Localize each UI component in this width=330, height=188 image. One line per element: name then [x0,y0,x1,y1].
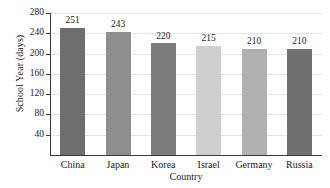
tick-mark [46,13,50,14]
gridline [51,54,322,55]
x-tick-label-russia: Russia [277,159,322,170]
tick-mark [46,114,50,115]
gridline [51,33,322,34]
gridline [51,94,322,95]
y-tick-label: 80 [35,109,45,119]
y-tick-label: 280 [30,8,44,18]
x-tick-label-china: China [50,159,95,170]
y-tick-label: 120 [30,89,44,99]
tick-mark [46,54,50,55]
gridline [51,74,322,75]
y-tick-label: 40 [35,130,45,140]
bar-value-label: 210 [247,37,261,47]
y-axis-title: School Year (days) [14,0,25,149]
gridline [51,13,322,14]
x-axis-title: Country [50,171,322,182]
bar-value-label: 220 [156,32,170,42]
tick-mark [46,33,50,34]
y-tick-label: 240 [30,28,44,38]
y-axis-line [50,13,51,155]
tick-mark [46,135,50,136]
bar-germany: 210 [242,49,267,156]
bar-value-label: 215 [202,34,216,44]
x-axis-line [50,155,322,156]
y-tick-label: 160 [30,69,44,79]
x-tick-label-korea: Korea [141,159,186,170]
x-tick-label-germany: Germany [231,159,276,170]
gridline [51,135,322,136]
bar-value-label: 210 [292,37,306,47]
y-tick-label: 200 [30,49,44,59]
bar-value-label: 243 [111,20,125,30]
bar-chart-figure: School Year (days) 2802402001601208040 2… [0,0,330,188]
bar-russia: 210 [287,49,312,156]
bar-china: 251 [60,28,85,155]
gridline [51,114,322,115]
bar-value-label: 251 [66,16,80,26]
tick-mark [46,74,50,75]
bar-israel: 215 [196,46,221,155]
tick-mark [46,94,50,95]
x-tick-label-japan: Japan [95,159,140,170]
bar-korea: 220 [151,43,176,155]
bar-japan: 243 [106,32,131,155]
x-tick-label-israel: Israel [186,159,231,170]
plot-area: 2802402001601208040 251243220215210210 C… [50,13,322,155]
